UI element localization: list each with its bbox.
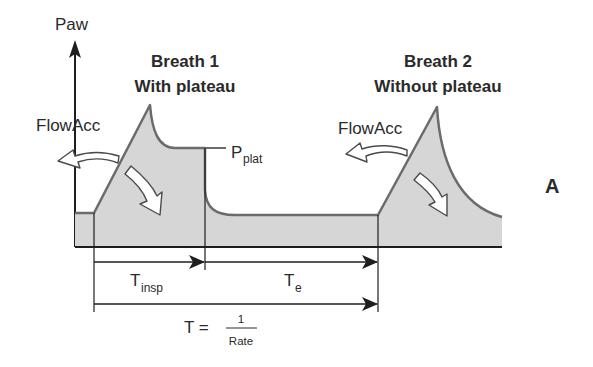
flowacc-arrow-breath1 bbox=[58, 150, 119, 168]
period-label: T = bbox=[184, 318, 209, 337]
panel-label: A bbox=[545, 175, 559, 197]
te-label-sub: e bbox=[295, 281, 302, 295]
pplat-label-sub: plat bbox=[243, 152, 263, 166]
pplat-label-main: P bbox=[231, 143, 242, 162]
pressure-waveform-diagram: Paw Breath 1 With plateau Breath 2 W bbox=[0, 0, 593, 367]
period-numerator: 1 bbox=[238, 313, 244, 325]
te-label-main: T bbox=[284, 271, 294, 290]
breath2-title: Breath 2 bbox=[404, 52, 472, 71]
breath1-title: Breath 1 bbox=[151, 52, 219, 71]
period-denominator: Rate bbox=[229, 335, 253, 347]
y-axis-label: Paw bbox=[55, 15, 89, 34]
flowacc-label-breath2: FlowAcc bbox=[338, 119, 403, 138]
breath1-subtitle: With plateau bbox=[135, 77, 236, 96]
flowacc-arrow-breath2 bbox=[346, 143, 407, 162]
tinsp-label-main: T bbox=[130, 271, 140, 290]
breath2-subtitle: Without plateau bbox=[374, 77, 501, 96]
tinsp-label-sub: insp bbox=[141, 281, 163, 295]
flowacc-label-breath1: FlowAcc bbox=[36, 116, 101, 135]
